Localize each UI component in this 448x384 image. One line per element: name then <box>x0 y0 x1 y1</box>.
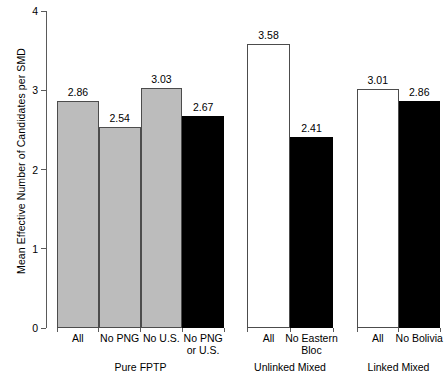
x-tick-mark <box>182 328 183 332</box>
bar-value-label: 3.01 <box>353 75 403 86</box>
bar <box>399 101 441 328</box>
x-tick-label: Bloc <box>267 345 357 357</box>
bar-chart: Mean Effective Number of Candidates per … <box>0 0 448 384</box>
bar-value-label: 3.03 <box>136 74 186 85</box>
y-tick-label-1: 1 <box>8 244 38 254</box>
y-tick-label-3: 3 <box>8 85 38 95</box>
x-tick-mark <box>224 328 225 332</box>
bar-value-label: 2.54 <box>95 113 145 124</box>
y-tick-label-4: 4 <box>8 6 38 16</box>
x-tick-label: No Bolivia <box>374 333 448 345</box>
bar <box>247 44 290 328</box>
x-tick-mark <box>333 328 334 332</box>
x-tick-mark <box>247 328 248 332</box>
bar-value-label: 2.86 <box>394 87 444 98</box>
bar-value-label: 2.86 <box>53 87 103 98</box>
y-tick-label-0: 0 <box>8 323 38 333</box>
bar <box>182 116 224 328</box>
plot-area: 2.862.543.032.673.582.413.012.86 <box>46 11 448 328</box>
y-tick-label-2: 2 <box>8 165 38 175</box>
bar-value-label: 2.67 <box>178 102 228 113</box>
x-tick-mark <box>140 328 141 332</box>
group-label: Linked Mixed <box>329 362 448 374</box>
group-label: Pure FPTP <box>71 362 211 374</box>
bar <box>99 127 141 328</box>
x-tick-label: or U.S. <box>158 345 248 357</box>
x-tick-mark <box>440 328 441 332</box>
bar <box>57 101 99 328</box>
x-tick-mark <box>357 328 358 332</box>
x-tick-mark <box>57 328 58 332</box>
bar <box>290 137 333 328</box>
bar-value-label: 3.58 <box>244 30 294 41</box>
bar <box>141 88 183 328</box>
bar <box>357 89 399 328</box>
bar-value-label: 2.41 <box>287 123 337 134</box>
